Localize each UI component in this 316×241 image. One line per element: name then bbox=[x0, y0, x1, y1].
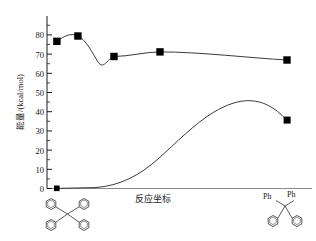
ph-label-left: Ph bbox=[263, 192, 271, 201]
data-point bbox=[110, 53, 117, 60]
ytick-label-0: 0 bbox=[24, 184, 44, 194]
ytick-label-30: 30 bbox=[24, 126, 44, 136]
upper-energy-curve bbox=[57, 35, 287, 65]
energy-profile-figure: 0 10 20 30 40 50 60 70 80 能量/(kcal/mol) … bbox=[0, 0, 316, 241]
data-point bbox=[53, 38, 60, 45]
ph-label-right: Ph bbox=[287, 190, 295, 199]
data-point bbox=[74, 32, 81, 39]
data-point bbox=[283, 56, 290, 63]
lower-data-markers bbox=[54, 117, 291, 192]
upper-data-markers bbox=[53, 32, 290, 63]
left-molecule-structure bbox=[46, 199, 89, 231]
data-point bbox=[284, 117, 291, 124]
ytick-label-70: 70 bbox=[24, 50, 44, 60]
y-axis-label: 能量/(kcal/mol) bbox=[13, 52, 25, 152]
bond-to-ph-right bbox=[285, 201, 294, 207]
bond-to-ph-left bbox=[276, 201, 285, 207]
right-molecule-structure bbox=[268, 201, 302, 227]
ytick-label-20: 20 bbox=[24, 146, 44, 156]
y-major-ticks bbox=[47, 35, 52, 189]
ytick-label-40: 40 bbox=[24, 107, 44, 117]
data-point bbox=[54, 186, 60, 192]
ytick-label-10: 10 bbox=[24, 165, 44, 175]
data-point bbox=[156, 48, 163, 55]
ytick-label-80: 80 bbox=[24, 30, 44, 40]
lower-energy-curve bbox=[57, 101, 287, 189]
x-axis-label: 反应坐标 bbox=[135, 192, 171, 205]
ytick-label-50: 50 bbox=[24, 88, 44, 98]
ytick-label-60: 60 bbox=[24, 69, 44, 79]
